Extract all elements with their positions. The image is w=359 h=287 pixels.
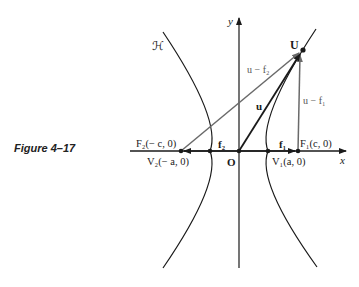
vertex-V1-label: V₁(a, 0) bbox=[272, 156, 306, 168]
vector-u-minus-f2-label: u − f₂ bbox=[247, 64, 269, 75]
point-V2 bbox=[208, 149, 213, 154]
point-F1 bbox=[296, 149, 301, 154]
point-U-label: U bbox=[290, 38, 299, 52]
vector-u-label: u bbox=[256, 100, 262, 112]
focus-F2-label: F₂(− c, 0) bbox=[136, 138, 177, 150]
hyperbola-figure: Figure 4–17 bbox=[0, 0, 359, 287]
focus-F1-label: F₁(c, 0) bbox=[300, 138, 332, 150]
vector-f2-label: f₂ bbox=[218, 138, 226, 150]
vertex-V2-label: V₂(− a, 0) bbox=[147, 156, 189, 168]
vector-f1-label: f₁ bbox=[279, 138, 286, 150]
hyperbola-left-branch bbox=[163, 32, 212, 268]
point-U bbox=[300, 47, 305, 52]
vector-u-minus-f1 bbox=[298, 55, 300, 151]
curve-label: ℋ bbox=[152, 39, 164, 53]
figure-caption: Figure 4–17 bbox=[14, 142, 75, 154]
y-axis-label: y bbox=[227, 15, 233, 27]
point-V1 bbox=[266, 149, 271, 154]
vector-u-minus-f1-label: u − f₁ bbox=[303, 95, 325, 106]
origin-label: O bbox=[227, 156, 236, 168]
vector-u-minus-f2 bbox=[181, 53, 299, 151]
point-O bbox=[237, 149, 242, 154]
point-F2 bbox=[179, 149, 184, 154]
x-axis-label: x bbox=[339, 154, 345, 166]
